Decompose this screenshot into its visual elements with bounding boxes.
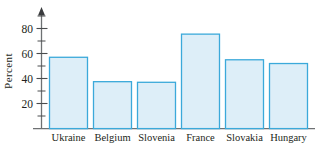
y-tick-label-20: 20 (22, 98, 34, 110)
category-label-france: France (186, 132, 215, 143)
y-tick-label-80: 80 (22, 23, 34, 35)
category-label-slovenia: Slovenia (138, 132, 175, 143)
bar-hungary (270, 64, 308, 129)
category-label-hungary: Hungary (270, 132, 307, 143)
bar-slovenia (138, 82, 176, 128)
y-tick-label-60: 60 (22, 48, 34, 60)
bar-ukraine (50, 57, 88, 128)
category-label-slovakia: Slovakia (226, 132, 263, 143)
bar-slovakia (226, 60, 264, 129)
y-axis-title: Percent (2, 53, 14, 89)
bar-chart-figure: 80 60 40 20 Percent Ukraine Belgium Slov… (0, 0, 321, 151)
bar-belgium (94, 82, 132, 129)
chart-canvas: 80 60 40 20 Percent Ukraine Belgium Slov… (0, 0, 321, 151)
bar-france (182, 34, 220, 128)
category-label-belgium: Belgium (94, 132, 130, 143)
category-label-ukraine: Ukraine (52, 132, 86, 143)
y-tick-label-40: 40 (22, 73, 34, 85)
